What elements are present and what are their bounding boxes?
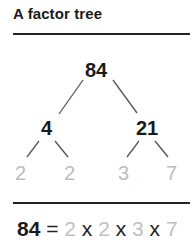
factor-4: 7 (166, 217, 178, 240)
branch-84-4 (59, 80, 83, 114)
times-sign: x (150, 217, 161, 240)
leaf-node-1: 2 (15, 163, 26, 183)
equals-sign: = (46, 217, 58, 240)
leaf-node-2: 2 (64, 163, 75, 183)
node-root: 84 (85, 60, 107, 80)
tree-branches (0, 0, 196, 247)
factor-1: 2 (64, 217, 76, 240)
node-level1-right: 21 (136, 118, 158, 138)
times-sign: x (82, 217, 93, 240)
branch-21-3 (127, 141, 139, 157)
branch-4-2b (55, 141, 68, 157)
leaf-node-4: 7 (166, 163, 177, 183)
branch-84-21 (113, 80, 137, 113)
factorization-equation: 84 = 2 x 2 x 3 x 7 (17, 218, 178, 240)
branch-21-7 (155, 141, 168, 157)
times-sign: x (116, 217, 127, 240)
leaf-node-3: 3 (118, 163, 129, 183)
node-level1-left: 4 (41, 118, 52, 138)
factor-2: 2 (98, 217, 110, 240)
factor-3: 3 (132, 217, 144, 240)
equation-lhs: 84 (17, 217, 40, 240)
bottom-divider (13, 202, 190, 204)
branch-4-2a (27, 141, 39, 157)
